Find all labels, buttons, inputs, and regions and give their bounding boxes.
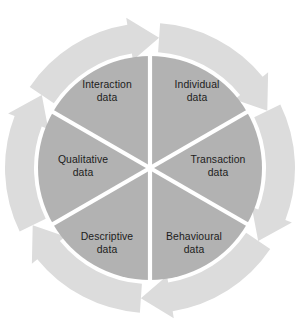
label-line2-interaction-data: data xyxy=(97,92,118,103)
label-line1-interaction-data: Interaction xyxy=(82,79,132,90)
label-line2-individual-data: data xyxy=(187,92,208,103)
label-line2-behavioural-data: data xyxy=(184,244,205,255)
label-line1-descriptive-data: Descriptive xyxy=(81,231,134,242)
label-line1-individual-data: Individual xyxy=(175,79,220,90)
data-types-wheel-diagram: IndividualdataTransactiondataBehavioural… xyxy=(0,0,299,331)
label-line2-qualitative-data: data xyxy=(73,167,94,178)
wheel-svg-canvas: IndividualdataTransactiondataBehavioural… xyxy=(0,0,299,331)
label-line1-qualitative-data: Qualitative xyxy=(58,154,108,165)
label-line2-descriptive-data: data xyxy=(97,244,118,255)
label-line2-transaction-data: data xyxy=(208,167,229,178)
label-line1-transaction-data: Transaction xyxy=(190,154,245,165)
label-line1-behavioural-data: Behavioural xyxy=(166,231,222,242)
